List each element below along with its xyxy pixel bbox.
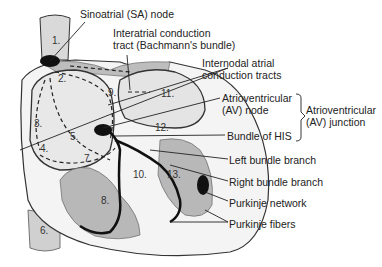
number-7: 7 [84, 153, 90, 164]
label-internodal-1: Internodal atrial [202, 57, 274, 69]
label-purkinje-fibers: Purkinje fibers [229, 218, 296, 230]
label-av-node-2: (AV) node [222, 104, 269, 116]
label-purkinje-network: Purkinje network [229, 197, 307, 209]
cardiac-conduction-diagram: 1. 2. 3. 4. 5. 6. 7 8. 9. 10. 11. 12. 13… [0, 0, 382, 267]
label-internodal-2: conduction tracts [202, 69, 281, 81]
label-av-junction-1: Atrioventricular [306, 104, 376, 116]
number-11: 11. [161, 88, 174, 99]
label-interatrial-2: tract (Bachmann's bundle) [113, 39, 235, 51]
number-2: 2. [58, 73, 66, 84]
label-bundle-his: Bundle of HIS [227, 130, 292, 142]
label-sa-node: Sinoatrial (SA) node [80, 8, 174, 20]
number-8: 8. [101, 195, 109, 206]
number-12: 12. [155, 122, 169, 133]
number-1: 1. [52, 35, 60, 46]
label-interatrial-1: Interatrial conduction [113, 27, 210, 39]
number-5: 5. [70, 131, 78, 142]
number-6: 6. [40, 225, 48, 236]
number-10: 10. [133, 169, 147, 180]
label-av-junction-2: (AV) junction [306, 116, 365, 128]
label-right-bundle-branch: Right bundle branch [229, 176, 323, 188]
number-9: 9. [108, 87, 116, 98]
number-3: 3. [34, 118, 42, 129]
label-av-node-1: Atrioventricular [222, 92, 292, 104]
number-4: 4. [40, 143, 48, 154]
label-left-bundle-branch: Left bundle branch [229, 154, 316, 166]
number-13: 13. [167, 169, 181, 180]
